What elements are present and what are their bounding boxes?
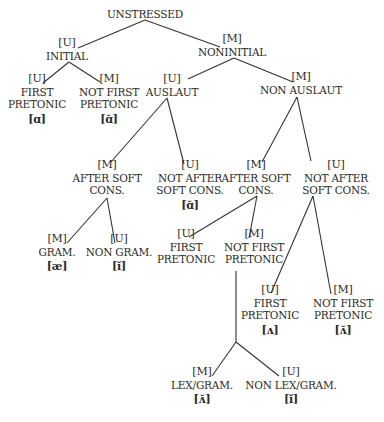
node-label-line2: PRETONIC (224, 253, 284, 266)
node-label-line1: NOT FIRST (224, 241, 284, 254)
phone-symbol: [ɑ̆] (156, 200, 223, 213)
node-label: INITIAL (46, 50, 88, 63)
edge-non-auslaut-after-soft (262, 97, 297, 162)
phone-symbol: [ɑ̆] (79, 114, 139, 127)
node-label-line1: NOT AFTER (156, 172, 223, 185)
node-label-line2: CONS. (73, 184, 142, 197)
feature-value: [M] (222, 159, 291, 172)
node-label-line1: FIRST (157, 241, 215, 254)
node-label-line2: SOFT CONS. (156, 184, 223, 197)
node-label: GRAM. (39, 246, 76, 259)
phone-symbol: [ĭ] (86, 261, 153, 274)
node-label-line2: PRETONIC (157, 253, 215, 266)
feature-value: [M] (198, 33, 266, 46)
node-label: NONINITIAL (198, 46, 266, 59)
phone-symbol: [ɑ] (8, 114, 66, 127)
node-label: NON AUSLAUT (260, 84, 342, 97)
node-non-auslaut-not-after-soft-cons: [U] NOT AFTER SOFT CONS. (302, 159, 369, 197)
node-auslaut-after-soft-cons: [M] AFTER SOFT CONS. (73, 159, 142, 197)
node-auslaut-not-after-soft-cons: [U] NOT AFTER SOFT CONS. [ɑ̆] (156, 159, 223, 212)
edge-auslaut-not-after-soft (167, 98, 184, 164)
node-label-line1: NOT AFTER (302, 172, 369, 185)
node-non-gram: [U] NON GRAM. [ĭ] (86, 233, 153, 274)
feature-value: [U] (46, 37, 88, 50)
node-non-auslaut-after-soft-cons: [M] AFTER SOFT CONS. (222, 159, 291, 197)
node-label-line2: PRETONIC (313, 309, 373, 322)
edge-non-auslaut-not-after-soft (297, 97, 311, 161)
node-label-line2: CONS. (222, 184, 291, 197)
node-initial-not-first-pretonic: [M] NOT FIRST PRETONIC [ɑ̆] (79, 73, 139, 126)
node-initial: [U] INITIAL (46, 37, 88, 62)
node-non-lex-gram: [U] NON LEX/GRAM. [ĭ] (245, 366, 336, 407)
phone-symbol: [ʌ] (241, 325, 299, 338)
feature-value: [M] (313, 284, 373, 297)
feature-value: [M] (171, 366, 233, 379)
node-non-auslaut: [M] NON AUSLAUT (260, 71, 342, 96)
node-label: LEX/GRAM. (171, 379, 233, 392)
feature-value: [M] (260, 71, 342, 84)
phone-symbol: [ĭ] (245, 394, 336, 407)
node-gram: [M] GRAM. [æ] (39, 233, 76, 274)
node-label-line1: NOT FIRST (313, 297, 373, 310)
node-label: NON GRAM. (86, 246, 153, 259)
node-unstressed: UNSTRESSED (107, 8, 183, 21)
feature-value: [U] (241, 284, 299, 297)
node-noninitial: [M] NONINITIAL (198, 33, 266, 58)
phone-symbol: [ʌ̆] (313, 325, 373, 338)
node-label-line1: AFTER SOFT (222, 172, 291, 185)
node-auslaut: [U] AUSLAUT (146, 73, 199, 98)
node-label-line1: AFTER SOFT (73, 172, 142, 185)
feature-value: [U] (156, 159, 223, 172)
node-label: AUSLAUT (146, 86, 199, 99)
node-label-line2: PRETONIC (241, 309, 299, 322)
node-label: UNSTRESSED (107, 8, 183, 21)
node-label: NON LEX/GRAM. (245, 379, 336, 392)
feature-value: [U] (302, 159, 369, 172)
node-initial-first-pretonic: [U] FIRST PRETONIC [ɑ] (8, 73, 66, 126)
feature-value: [M] (73, 159, 142, 172)
node-label-line1: FIRST (8, 86, 66, 99)
feature-value: [U] (146, 73, 199, 86)
feature-value: [U] (86, 233, 153, 246)
node-label-line2: PRETONIC (79, 98, 139, 111)
feature-value: [U] (245, 366, 336, 379)
feature-value: [U] (8, 73, 66, 86)
feature-value: [M] (79, 73, 139, 86)
feature-tree-diagram: UNSTRESSED [U] INITIAL [M] NONINITIAL [U… (0, 0, 384, 422)
node-label-line1: NOT FIRST (79, 86, 139, 99)
phone-symbol: [æ] (39, 261, 76, 274)
node-soft-first-pretonic: [U] FIRST PRETONIC (157, 228, 215, 266)
node-label-line1: FIRST (241, 297, 299, 310)
node-hard-first-pretonic: [U] FIRST PRETONIC [ʌ] (241, 284, 299, 337)
feature-value: [U] (157, 228, 215, 241)
edge-hard-not-first-pretonic (313, 196, 331, 294)
node-hard-not-first-pretonic: [M] NOT FIRST PRETONIC [ʌ̆] (313, 284, 373, 337)
edge-unstressed-initial (78, 20, 145, 48)
phone-symbol: [ʌ̆] (171, 394, 233, 407)
node-soft-not-first-pretonic: [M] NOT FIRST PRETONIC (224, 228, 284, 266)
node-label-line2: SOFT CONS. (302, 184, 369, 197)
feature-value: [M] (224, 228, 284, 241)
node-label-line2: PRETONIC (8, 98, 66, 111)
node-lex-gram: [M] LEX/GRAM. [ʌ̆] (171, 366, 233, 407)
feature-value: [M] (39, 233, 76, 246)
